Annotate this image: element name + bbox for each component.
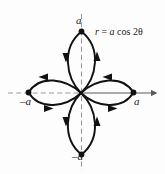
- axis-label-top: a: [76, 15, 82, 26]
- axis-label-right: a: [134, 96, 140, 107]
- axis-label-left: –a: [20, 96, 31, 107]
- equation-theta: θ: [138, 26, 143, 37]
- axis-label-bottom: –a: [72, 151, 83, 162]
- arrow-right-top-left: [103, 74, 113, 81]
- arrow-right-bottom-right: [108, 105, 118, 112]
- equation-cos: cos 2: [115, 26, 138, 37]
- tip-dot-top: [79, 29, 85, 35]
- arrow-left-bottom-right: [44, 105, 54, 112]
- equation-equals: =: [99, 26, 110, 37]
- arrow-left-top-left: [39, 74, 49, 81]
- equation-annotation: r = a cos 2θ: [95, 27, 143, 37]
- polar-rose-figure: a –a –a a r = a cos 2θ: [0, 0, 165, 174]
